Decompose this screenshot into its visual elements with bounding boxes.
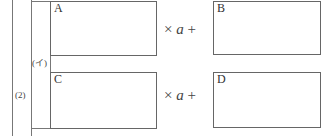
box-a-label: A bbox=[54, 2, 63, 15]
times-sign: × bbox=[164, 87, 172, 103]
outer-left-rule bbox=[12, 0, 13, 136]
problem-number-label: (2) bbox=[15, 90, 26, 100]
times-a-plus-expression: × a + bbox=[164, 21, 196, 37]
variable-a: a bbox=[176, 87, 184, 103]
box-d-label: D bbox=[217, 73, 226, 86]
answer-box-c[interactable]: C bbox=[50, 72, 157, 129]
top-rule bbox=[31, 1, 51, 2]
answer-box-b[interactable]: B bbox=[213, 1, 321, 55]
box-b-label: B bbox=[217, 2, 225, 15]
variable-a: a bbox=[176, 21, 184, 37]
plus-sign: + bbox=[187, 21, 195, 37]
times-a-plus-expression: × a + bbox=[164, 87, 196, 103]
answer-box-a[interactable]: A bbox=[50, 1, 157, 56]
inner-left-rule bbox=[31, 0, 32, 136]
box-c-label: C bbox=[54, 73, 62, 86]
plus-sign: + bbox=[187, 87, 195, 103]
sub-problem-label: (イ) bbox=[32, 58, 47, 68]
times-sign: × bbox=[164, 21, 172, 37]
bottom-rule bbox=[31, 128, 51, 129]
answer-box-d[interactable]: D bbox=[213, 72, 321, 128]
